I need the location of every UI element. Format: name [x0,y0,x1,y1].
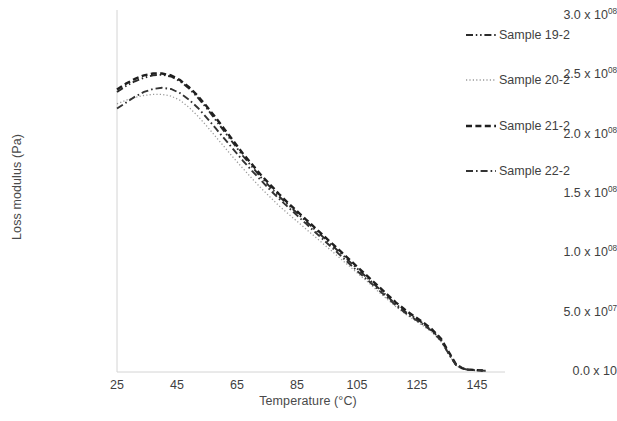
legend-item-label: Sample 21-2 [499,119,570,133]
plot-area [0,0,617,421]
series-line-sample-19-2 [117,75,486,371]
legend-line-swatch [466,73,496,87]
chart-figure: Loss modulus (Pa) Temperature (°C) 0.0 x… [0,0,617,421]
legend-item-sample-20-2[interactable]: Sample 20-2 [466,71,570,89]
axis-lines [117,10,505,372]
legend-line-swatch [466,28,496,42]
legend-item-sample-19-2[interactable]: Sample 19-2 [466,26,570,44]
legend-item-label: Sample 22-2 [499,164,570,178]
legend-item-label: Sample 20-2 [499,73,570,87]
legend-item-sample-21-2[interactable]: Sample 21-2 [466,117,570,135]
legend-item-sample-22-2[interactable]: Sample 22-2 [466,162,570,180]
legend-line-swatch [466,164,496,178]
legend-line-swatch [466,119,496,133]
series-line-sample-22-2 [117,88,486,371]
legend-item-label: Sample 19-2 [499,28,570,42]
data-series-group [117,74,486,371]
series-line-sample-21-2 [117,74,486,371]
